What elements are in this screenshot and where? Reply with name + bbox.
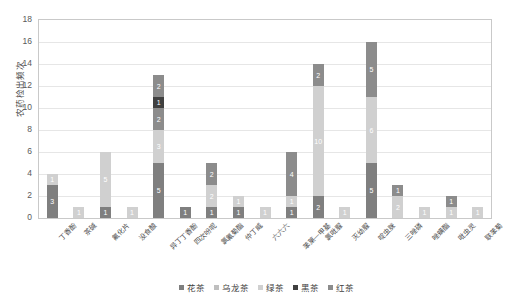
bar-segment: 10 bbox=[313, 86, 324, 196]
bar-segment: 4 bbox=[286, 152, 297, 196]
bar-segment: 3 bbox=[47, 185, 58, 218]
legend-swatch bbox=[293, 285, 298, 290]
legend-label: 花茶 bbox=[187, 281, 205, 293]
x-tick-label: 六六六 bbox=[269, 220, 291, 242]
bar-value-label: 4 bbox=[290, 171, 294, 178]
y-tick-label: 8 bbox=[27, 124, 32, 134]
legend-swatch bbox=[179, 285, 184, 290]
y-tick-label: 12 bbox=[23, 80, 32, 90]
bar-segment: 1 bbox=[127, 207, 138, 218]
y-tick-label: 2 bbox=[27, 190, 32, 200]
legend-item[interactable]: 花茶 bbox=[179, 281, 205, 293]
bar-segment: 1 bbox=[100, 207, 111, 218]
x-tick-label: 氟化片 bbox=[110, 220, 132, 242]
x-tick-label: 氯氰菊酯 bbox=[218, 220, 245, 247]
bar-value-label: 2 bbox=[396, 204, 400, 211]
bar-column[interactable]: 1 bbox=[73, 207, 84, 218]
bar-value-label: 1 bbox=[476, 209, 480, 216]
bar-segment: 5 bbox=[366, 42, 377, 97]
bar-value-label: 1 bbox=[77, 209, 81, 216]
bar-column[interactable]: 1 bbox=[339, 207, 350, 218]
x-tick-label: 没食酸 bbox=[136, 220, 158, 242]
bar-value-label: 3 bbox=[157, 143, 161, 150]
legend-item[interactable]: 黑茶 bbox=[293, 281, 319, 293]
bar-value-label: 1 bbox=[396, 187, 400, 194]
legend-item[interactable]: 乌龙茶 bbox=[214, 281, 249, 293]
x-tick-label: 联苯菊 bbox=[482, 220, 504, 242]
bar-segment: 2 bbox=[313, 196, 324, 218]
bar-column[interactable]: 1 bbox=[472, 207, 483, 218]
bar-value-label: 1 bbox=[423, 209, 427, 216]
bar-value-label: 2 bbox=[316, 204, 320, 211]
bar-segment: 1 bbox=[446, 207, 457, 218]
bar-value-label: 1 bbox=[50, 176, 54, 183]
bar-value-label: 1 bbox=[290, 198, 294, 205]
bar-value-label: 1 bbox=[210, 209, 214, 216]
y-tick-label: 0 bbox=[27, 212, 32, 222]
bar-segment: 1 bbox=[286, 196, 297, 207]
x-tick-label: 啶虫脒 bbox=[375, 220, 397, 242]
bar-column[interactable]: 21 bbox=[392, 185, 403, 218]
legend-item[interactable]: 红茶 bbox=[328, 281, 354, 293]
x-tick-label: 吡虫灵 bbox=[455, 220, 477, 242]
bar-value-label: 1 bbox=[157, 99, 161, 106]
bar-segment: 1 bbox=[206, 207, 217, 218]
bar-value-label: 1 bbox=[130, 209, 134, 216]
x-tick-label: 仲丁威 bbox=[243, 220, 265, 242]
bar-segment: 2 bbox=[392, 196, 403, 218]
bar-column[interactable]: 31 bbox=[47, 174, 58, 218]
bar-column[interactable]: 2102 bbox=[313, 64, 324, 218]
bar-segment: 2 bbox=[206, 163, 217, 185]
chart-legend: 花茶乌龙茶绿茶黑茶红茶 bbox=[0, 281, 532, 293]
legend-label: 绿茶 bbox=[266, 281, 284, 293]
bar-value-label: 1 bbox=[449, 209, 453, 216]
bar-segment: 1 bbox=[339, 207, 350, 218]
bar-segment: 1 bbox=[233, 207, 244, 218]
bar-value-label: 2 bbox=[210, 193, 214, 200]
bar-column[interactable]: 11 bbox=[446, 196, 457, 218]
bar-value-label: 3 bbox=[50, 198, 54, 205]
bar-column[interactable]: 53212 bbox=[153, 75, 164, 218]
bar-segment: 1 bbox=[286, 207, 297, 218]
bar-series-container: 31115153212112211111421021565211111 bbox=[39, 20, 491, 218]
legend-label: 乌龙茶 bbox=[222, 281, 249, 293]
bar-column[interactable]: 1 bbox=[127, 207, 138, 218]
x-tick-label: 茶碱 bbox=[81, 220, 98, 237]
bar-segment: 2 bbox=[206, 185, 217, 207]
bar-value-label: 10 bbox=[314, 138, 322, 145]
bar-segment: 5 bbox=[153, 163, 164, 218]
x-tick-label: 三唑磷 bbox=[402, 220, 424, 242]
legend-item[interactable]: 绿茶 bbox=[258, 281, 284, 293]
bar-segment: 3 bbox=[153, 130, 164, 163]
x-axis-tick-labels: 丁香酚茶碱氟化片没食酸异丁丁香酚四次吩呢氯氰菊酯仲丁威六六六苯莱一甲基氯吡脲灭幼… bbox=[39, 220, 491, 272]
bar-segment: 1 bbox=[153, 97, 164, 108]
y-axis-tick-labels: 024681012141618 bbox=[0, 19, 34, 219]
bar-column[interactable]: 1 bbox=[419, 207, 430, 218]
bar-segment: 5 bbox=[366, 163, 377, 218]
bar-segment: 1 bbox=[472, 207, 483, 218]
bar-column[interactable]: 122 bbox=[206, 163, 217, 218]
bar-column[interactable]: 11 bbox=[233, 196, 244, 218]
bar-segment: 1 bbox=[180, 207, 191, 218]
bar-segment: 5 bbox=[100, 152, 111, 207]
bar-value-label: 5 bbox=[157, 187, 161, 194]
x-tick-label: 灭幼脲 bbox=[349, 220, 371, 242]
bar-segment: 1 bbox=[73, 207, 84, 218]
bar-column[interactable]: 114 bbox=[286, 152, 297, 218]
legend-swatch bbox=[214, 285, 219, 290]
bar-column[interactable]: 1 bbox=[260, 207, 271, 218]
x-tick-label: 唑螨酯 bbox=[429, 220, 451, 242]
bar-value-label: 2 bbox=[157, 116, 161, 123]
y-tick-label: 16 bbox=[23, 36, 32, 46]
bar-column[interactable]: 15 bbox=[100, 152, 111, 218]
bar-segment: 2 bbox=[153, 108, 164, 130]
legend-label: 黑茶 bbox=[301, 281, 319, 293]
bar-value-label: 1 bbox=[236, 209, 240, 216]
bar-column[interactable]: 1 bbox=[180, 207, 191, 218]
bar-value-label: 1 bbox=[343, 209, 347, 216]
bar-segment: 1 bbox=[419, 207, 430, 218]
legend-swatch bbox=[258, 285, 263, 290]
bar-segment: 1 bbox=[47, 174, 58, 185]
bar-column[interactable]: 565 bbox=[366, 42, 377, 218]
y-tick-label: 10 bbox=[23, 102, 32, 112]
